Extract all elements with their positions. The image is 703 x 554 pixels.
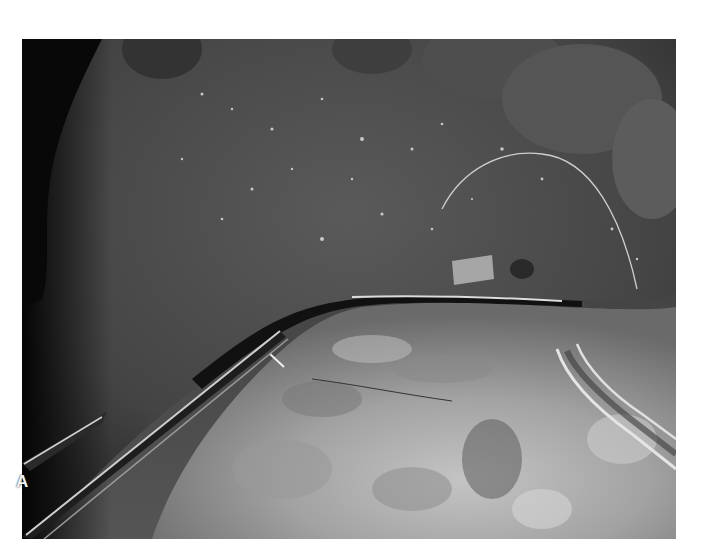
- panel-label: A: [16, 472, 28, 492]
- surgical-photograph: [22, 39, 676, 539]
- photo-rendering: [22, 39, 676, 539]
